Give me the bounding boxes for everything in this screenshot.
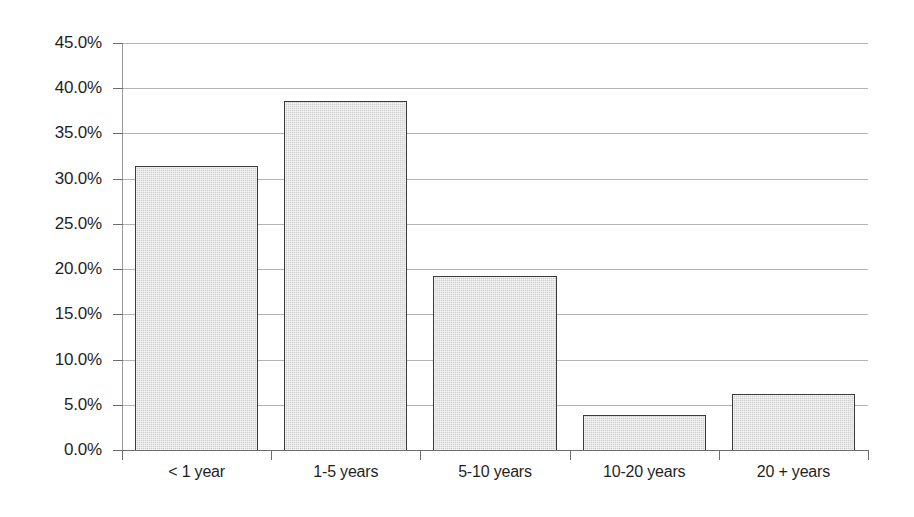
- x-tick-mark: [868, 451, 869, 460]
- y-tick-label: 20.0%: [0, 260, 102, 277]
- x-tick-label: 10-20 years: [570, 462, 719, 482]
- bar: [135, 166, 258, 451]
- y-tick-label: 35.0%: [0, 124, 102, 141]
- y-tick-mark: [113, 405, 123, 406]
- y-tick-mark: [113, 43, 123, 44]
- bar: [732, 394, 855, 451]
- y-tick-label: 30.0%: [0, 170, 102, 187]
- plot-area: [122, 43, 868, 450]
- bar-chart: 45.0%40.0%35.0%30.0%25.0%20.0%15.0%10.0%…: [0, 0, 914, 517]
- gridline: [122, 133, 868, 134]
- x-axis-line: [122, 450, 869, 451]
- x-tick-mark: [271, 451, 272, 460]
- x-tick-label: 1-5 years: [271, 462, 420, 482]
- y-tick-label: 40.0%: [0, 79, 102, 96]
- y-tick-label: 25.0%: [0, 215, 102, 232]
- y-tick-mark: [113, 360, 123, 361]
- x-tick-label: 20 + years: [719, 462, 868, 482]
- x-tick-mark: [719, 451, 720, 460]
- y-tick-label: 5.0%: [0, 396, 102, 413]
- y-axis-line: [122, 43, 123, 451]
- y-tick-mark: [113, 314, 123, 315]
- y-tick-label: 45.0%: [0, 34, 102, 51]
- x-tick-label: 5-10 years: [420, 462, 569, 482]
- bar: [433, 276, 556, 451]
- x-tick-mark: [122, 451, 123, 460]
- y-tick-label: 15.0%: [0, 305, 102, 322]
- y-tick-label: 10.0%: [0, 351, 102, 368]
- y-tick-mark: [113, 88, 123, 89]
- y-tick-mark: [113, 224, 123, 225]
- y-tick-label: 0.0%: [0, 441, 102, 458]
- x-tick-mark: [570, 451, 571, 460]
- bar: [284, 101, 407, 451]
- bar: [583, 415, 706, 451]
- gridline: [122, 88, 868, 89]
- y-tick-mark: [113, 179, 123, 180]
- y-tick-mark: [113, 269, 123, 270]
- x-tick-label: < 1 year: [122, 462, 271, 482]
- y-tick-mark: [113, 133, 123, 134]
- x-tick-mark: [420, 451, 421, 460]
- gridline: [122, 43, 868, 44]
